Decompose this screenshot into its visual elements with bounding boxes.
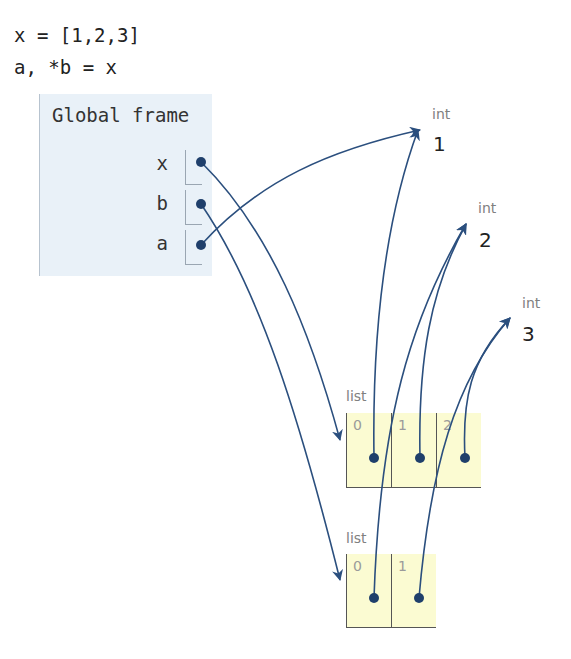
pointer-dot-list1-2 (460, 453, 470, 463)
pointer-dot-x (196, 157, 206, 167)
pointer-dot-b (196, 199, 206, 209)
pointer-arrows (0, 0, 571, 659)
arrow-list1-0-to-int1 (374, 130, 418, 458)
arrow-list1-2-to-int3 (464, 318, 510, 458)
pointer-dot-a (196, 240, 206, 250)
arrow-list1-1-to-int2 (420, 224, 466, 458)
arrow-a-to-int1 (201, 130, 420, 245)
arrow-x-to-list1 (201, 162, 340, 440)
pointer-dot-list2-0 (369, 593, 379, 603)
pointer-dot-list1-1 (415, 453, 425, 463)
pointer-dot-list2-1 (414, 593, 424, 603)
arrow-b-to-list2 (201, 204, 340, 580)
pointer-dot-list1-0 (369, 453, 379, 463)
